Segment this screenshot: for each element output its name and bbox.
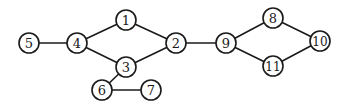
node-1: 1 — [116, 10, 136, 30]
node-10: 10 — [310, 31, 330, 51]
node-3: 3 — [116, 57, 136, 77]
node-label: 1 — [122, 13, 130, 28]
edges — [29, 18, 320, 90]
node-label: 8 — [269, 11, 277, 26]
node-6: 6 — [92, 80, 112, 100]
node-label: 3 — [122, 60, 130, 75]
graph-diagram: 1234567891011 — [0, 0, 350, 105]
node-4: 4 — [67, 33, 87, 53]
node-8: 8 — [263, 8, 283, 28]
node-label: 6 — [98, 83, 106, 98]
node-label: 4 — [73, 36, 81, 51]
node-9: 9 — [216, 33, 236, 53]
node-7: 7 — [141, 80, 161, 100]
node-5: 5 — [19, 33, 39, 53]
node-label: 10 — [312, 35, 327, 49]
node-label: 5 — [25, 36, 33, 51]
node-2: 2 — [166, 33, 186, 53]
node-11: 11 — [263, 56, 283, 76]
node-label: 7 — [147, 83, 155, 98]
node-label: 9 — [222, 36, 230, 51]
node-label: 2 — [172, 36, 180, 51]
node-label: 11 — [265, 60, 280, 74]
nodes: 1234567891011 — [19, 8, 330, 100]
